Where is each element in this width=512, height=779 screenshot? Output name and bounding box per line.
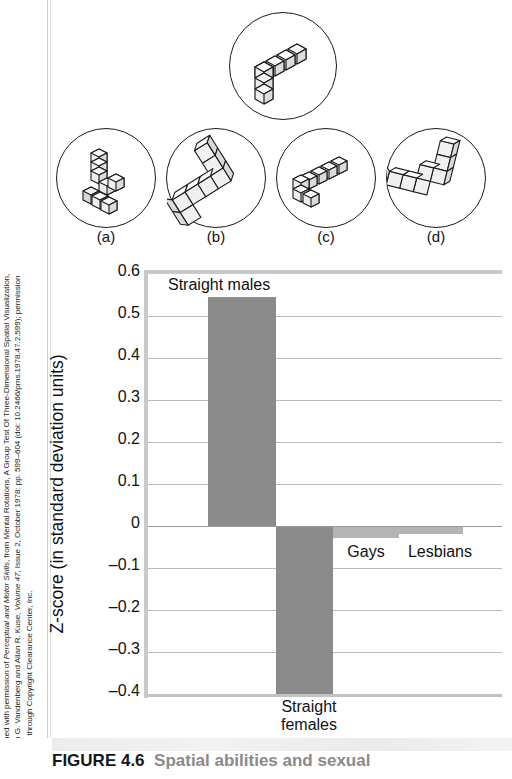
- bar-label-straight-males: Straight males: [168, 276, 358, 294]
- bar-straight-males[interactable]: [208, 297, 276, 526]
- option-c-cube-figure-icon: [277, 129, 377, 229]
- figure-caption: FIGURE 4.6 Spatial abilities and sexual: [52, 751, 370, 771]
- y-tick: –0.2: [74, 599, 140, 615]
- y-tick: 0.6: [74, 263, 140, 279]
- mental-rotation-stimulus-area: (a) (b): [52, 0, 512, 258]
- mental-rotation-option-a-circle[interactable]: [56, 128, 156, 228]
- bar-gays[interactable]: [333, 527, 399, 538]
- y-tick: 0.1: [74, 473, 140, 489]
- option-d-label: (d): [401, 228, 471, 245]
- y-tick: –0.1: [74, 557, 140, 573]
- gridline-0.1: [148, 484, 502, 485]
- bar-label-lesbians: Lesbians: [398, 543, 482, 561]
- bar-label-straight-females: Straight females: [254, 698, 364, 733]
- y-tick: 0.4: [74, 347, 140, 363]
- caption-spacer: [145, 751, 154, 770]
- bar-label-gays: Gays: [330, 543, 402, 561]
- gridline-0.4: [148, 358, 502, 359]
- mental-rotation-option-d-circle[interactable]: [386, 128, 486, 228]
- credit-line-1-italic: Perceptual and Motor Skills: [2, 562, 11, 659]
- figure-caption-band: FIGURE 4.6 Spatial abilities and sexual: [0, 738, 512, 779]
- y-axis-tick-labels: 0.6 0.5 0.4 0.3 0.2 0.1 0 –0.1 –0.2 –0.3…: [74, 258, 140, 710]
- credit-line-1-post: , from Mental Rotations, A Group Test Of…: [2, 274, 11, 562]
- y-tick: 0.3: [74, 389, 140, 405]
- image-credit-block: Republished with permission of Perceptua…: [0, 0, 46, 779]
- credit-line-3: conveyed through Copyright Clearance Cen…: [24, 0, 35, 772]
- figure-panel: (a) (b): [52, 0, 512, 738]
- credit-line-2: by Steven G. Vandenberg and Allan R. Kus…: [12, 0, 23, 772]
- figure-number: FIGURE 4.6: [52, 751, 145, 770]
- y-tick: –0.3: [74, 641, 140, 657]
- credit-line-2-italic: Volume 47: [13, 573, 22, 611]
- gridline-0.5: [148, 316, 502, 317]
- mental-rotation-option-b-circle[interactable]: [166, 128, 266, 228]
- option-b-label: (b): [181, 228, 251, 245]
- target-cube-figure-icon: [230, 13, 338, 121]
- mental-rotation-option-c-circle[interactable]: [276, 128, 376, 228]
- gridline-neg0.4: [148, 694, 502, 697]
- credit-line-1: Republished with permission of Perceptua…: [1, 0, 12, 772]
- credit-line-2-post: , Issue 2, October 1978: pp. 599–604 (do…: [13, 276, 22, 573]
- option-c-label: (c): [291, 228, 361, 245]
- gridline-0.3: [148, 400, 502, 401]
- y-tick: 0: [74, 515, 140, 531]
- mental-rotation-target-circle: [229, 12, 337, 120]
- y-tick: 0.2: [74, 431, 140, 447]
- y-tick: –0.4: [74, 683, 140, 699]
- plot-area: Straight males Straight females Gays Les…: [144, 270, 502, 698]
- option-d-cube-figure-icon: [387, 129, 487, 229]
- bar-straight-females[interactable]: [276, 527, 333, 694]
- bar-chart: Z-score (in standard deviation units) 0.…: [52, 258, 512, 738]
- plot-inner: Straight males Straight females Gays Les…: [148, 274, 502, 698]
- option-a-label: (a): [71, 228, 141, 245]
- y-axis-label: Z-score (in standard deviation units): [46, 284, 68, 704]
- figure-title: Spatial abilities and sexual: [154, 751, 370, 770]
- image-credit-text: Republished with permission of Perceptua…: [0, 0, 46, 772]
- bar-lesbians[interactable]: [399, 527, 463, 534]
- option-b-cube-figure-icon: [167, 129, 267, 229]
- gridline-0.2: [148, 442, 502, 443]
- y-tick: 0.5: [74, 305, 140, 321]
- option-a-cube-figure-icon: [57, 129, 157, 229]
- caption-ghost-strip: [52, 738, 512, 751]
